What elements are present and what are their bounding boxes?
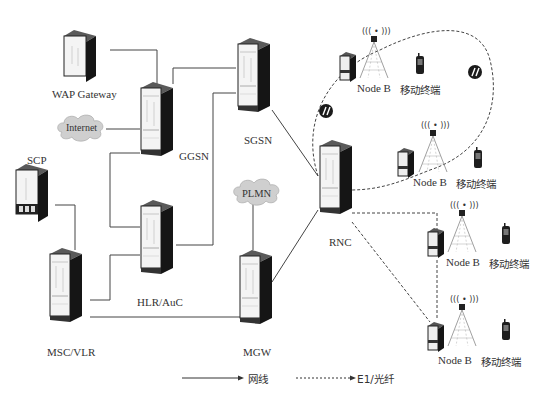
mobile-terminal-label-3: 移动终端 xyxy=(489,256,529,271)
node-b-site-4 xyxy=(428,295,510,352)
legend-solid-label: 网线 xyxy=(248,371,268,386)
legend-solid-line xyxy=(182,376,244,381)
mobile-terminal-label-1: 移动终端 xyxy=(400,82,440,97)
plmn-label: PLMN xyxy=(242,188,271,199)
node-b-box xyxy=(428,322,444,352)
mobile-terminal-label-2: 移动终端 xyxy=(456,176,496,191)
mobile-terminal-label-4: 移动终端 xyxy=(481,354,521,369)
mobile-phone-icon xyxy=(416,53,424,74)
scp-device xyxy=(16,164,48,222)
mobile-phone-icon xyxy=(502,223,510,244)
node-b-label-1: Node B xyxy=(357,82,391,94)
hlr-auc-label: HLR/AuC xyxy=(137,296,183,308)
internet-label: Internet xyxy=(66,122,97,133)
ggsn-device xyxy=(141,82,173,156)
node-b-label-3: Node B xyxy=(446,256,480,268)
mgw-device xyxy=(240,250,272,324)
mobile-phone-icon xyxy=(474,147,482,168)
node-b-site-3 xyxy=(428,201,510,258)
hlr-device xyxy=(141,200,173,274)
antenna-tower-icon xyxy=(448,201,479,252)
ggsn-label: GGSN xyxy=(179,150,209,162)
wap-gateway-label: WAP Gateway xyxy=(52,88,117,100)
node-b-site-2 xyxy=(398,121,482,178)
repeater-icon xyxy=(468,65,482,79)
sgsn-label: SGSN xyxy=(244,134,272,146)
rnc-label: RNC xyxy=(329,236,352,248)
node-b-box xyxy=(398,148,414,178)
wap-gateway-device xyxy=(64,30,96,82)
rnc-device xyxy=(320,140,352,214)
network-diagram: ((( • ))) xyxy=(0,0,548,397)
mgw-label: MGW xyxy=(243,346,271,358)
node-b-label-4: Node B xyxy=(438,354,472,366)
node-b-box xyxy=(428,228,444,258)
scp-label: SCP xyxy=(27,154,47,166)
msc-device xyxy=(50,248,82,322)
mobile-phone-icon xyxy=(502,319,510,340)
msc-vlr-label: MSC/VLR xyxy=(47,346,95,358)
node-b-box xyxy=(340,52,356,82)
repeater-icon xyxy=(319,104,333,118)
legend-dashed-label: E1/光纤 xyxy=(357,371,394,386)
node-b-label-2: Node B xyxy=(413,176,447,188)
node-b-site-1 xyxy=(340,27,424,82)
antenna-tower-icon xyxy=(448,295,479,346)
legend-dashed-line xyxy=(296,376,356,381)
sgsn-device xyxy=(238,38,270,112)
